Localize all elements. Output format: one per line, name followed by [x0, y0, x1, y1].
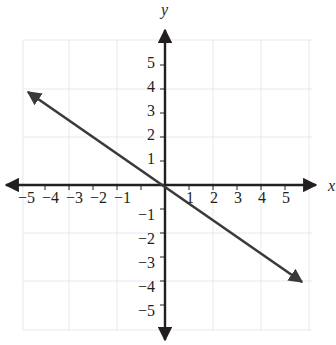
x-tick-label: −3 — [66, 190, 83, 206]
x-tick-label: −2 — [90, 190, 107, 206]
graph-canvas — [0, 0, 336, 345]
x-axis-label: x — [328, 178, 335, 194]
y-tick-label: 2 — [147, 127, 155, 143]
x-tick-label: −5 — [18, 190, 35, 206]
x-tick-label: 4 — [258, 190, 266, 206]
x-tick-label: 5 — [282, 190, 290, 206]
y-tick-label: 1 — [147, 151, 155, 167]
y-tick-label: 3 — [147, 103, 155, 119]
x-tick-label: 1 — [186, 190, 194, 206]
y-tick-label: −1 — [138, 207, 155, 223]
y-tick-label: −5 — [138, 303, 155, 319]
y-tick-label: 4 — [147, 79, 155, 95]
y-axis-label: y — [161, 2, 168, 18]
x-tick-label: 3 — [234, 190, 242, 206]
y-tick-label: −4 — [138, 279, 155, 295]
x-tick-label: −4 — [42, 190, 59, 206]
coordinate-plane-figure: y x −5 −4 −3 −2 −1 1 2 3 4 5 5 4 3 2 1 −… — [0, 0, 336, 345]
x-tick-label: 2 — [210, 190, 218, 206]
y-tick-label: −3 — [138, 255, 155, 271]
x-tick-label: −1 — [114, 190, 131, 206]
y-tick-label: 5 — [147, 55, 155, 71]
y-tick-label: −2 — [138, 231, 155, 247]
